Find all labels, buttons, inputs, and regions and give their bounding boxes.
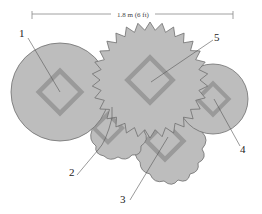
callout-label-3: 3 [120, 193, 126, 205]
dimension-label: 1.8 m (6 ft) [117, 11, 150, 19]
diagram-canvas: 1.8 m (6 ft) 1 5 4 2 3 [0, 0, 262, 214]
callout-label-2: 2 [69, 166, 75, 178]
callout-label-5: 5 [214, 31, 220, 43]
callout-label-4: 4 [240, 143, 246, 155]
dimension-line: 1.8 m (6 ft) [32, 11, 233, 20]
callout-label-1: 1 [19, 27, 25, 39]
